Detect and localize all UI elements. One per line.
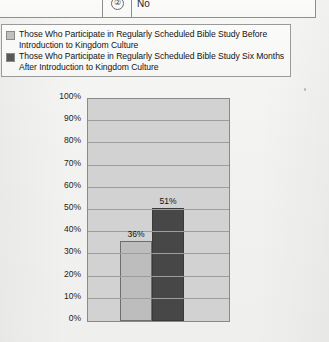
y-axis-tick-label: 40% bbox=[64, 224, 81, 234]
legend-item-before: Those Who Participate in Regularly Sched… bbox=[6, 29, 286, 50]
y-axis-tick-label: 30% bbox=[64, 246, 81, 256]
bar-chart: 100%90%80%70%60%50%40%30%20%10%0% 36%51% bbox=[0, 82, 329, 342]
y-axis-tick-label: 70% bbox=[64, 158, 81, 168]
circled-number: ② bbox=[111, 0, 124, 10]
bar-data-label: 36% bbox=[120, 229, 152, 239]
table-cell-item-number: ② bbox=[103, 0, 132, 17]
plot-area bbox=[87, 98, 230, 322]
bar-data-label: 51% bbox=[152, 196, 184, 206]
table-cell-answer: No bbox=[132, 0, 315, 17]
gridline bbox=[88, 231, 229, 232]
gridline bbox=[88, 165, 229, 166]
gridline bbox=[88, 142, 229, 143]
y-axis-tick-label: 50% bbox=[64, 202, 81, 212]
gridline bbox=[88, 120, 229, 121]
scan-speck bbox=[304, 88, 306, 91]
legend-item-after: Those Who Participate in Regularly Sched… bbox=[6, 51, 286, 72]
chart-legend: Those Who Participate in Regularly Sched… bbox=[1, 24, 291, 77]
gridline bbox=[88, 209, 229, 210]
gridline bbox=[88, 253, 229, 254]
table-cell-blank bbox=[0, 0, 103, 17]
bar-after bbox=[152, 208, 184, 321]
gridline bbox=[88, 98, 229, 99]
gridline bbox=[88, 187, 229, 188]
y-axis-tick-label: 90% bbox=[64, 113, 81, 123]
legend-label-after: Those Who Participate in Regularly Sched… bbox=[19, 51, 286, 72]
y-axis-tick-label: 20% bbox=[64, 269, 81, 279]
y-axis: 100%90%80%70%60%50%40%30%20%10%0% bbox=[44, 98, 84, 322]
y-axis-tick-label: 60% bbox=[64, 180, 81, 190]
table-row-fragment: ② No bbox=[0, 0, 316, 18]
y-axis-tick-label: 0% bbox=[69, 313, 81, 323]
gridline bbox=[88, 276, 229, 277]
legend-swatch-after-icon bbox=[6, 53, 15, 62]
y-axis-tick-label: 100% bbox=[59, 91, 81, 101]
y-axis-tick-label: 10% bbox=[64, 291, 81, 301]
gridline bbox=[88, 298, 229, 299]
legend-label-before: Those Who Participate in Regularly Sched… bbox=[19, 29, 286, 50]
legend-swatch-before-icon bbox=[6, 31, 15, 40]
y-axis-tick-label: 80% bbox=[64, 135, 81, 145]
